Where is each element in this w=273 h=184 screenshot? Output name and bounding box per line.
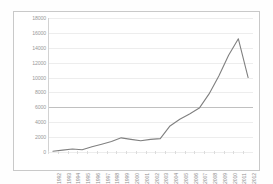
- x-tick-label-1996: 1996: [96, 173, 101, 183]
- x-tick-label-2007: 2007: [203, 173, 208, 183]
- y-tick-label-6000: 6000: [35, 105, 46, 110]
- x-tick-mark-2001: [136, 151, 137, 154]
- y-tick-label-10000: 10000: [32, 75, 46, 80]
- x-tick-mark-1996: [87, 151, 88, 154]
- plot-area: [48, 18, 253, 152]
- x-tick-label-2008: 2008: [213, 173, 218, 183]
- x-tick-mark-1995: [77, 151, 78, 154]
- x-tick-mark-2006: [185, 151, 186, 154]
- x-tick-mark-2004: [165, 151, 166, 154]
- x-tick-label-2000: 2000: [135, 173, 140, 183]
- x-tick-mark-2007: [194, 151, 195, 154]
- chart-plot-wrapper: 0200040006000800010000120001400016000180…: [14, 12, 261, 172]
- y-tick-label-0: 0: [43, 150, 46, 155]
- x-tick-mark-2008: [204, 151, 205, 154]
- x-tick-mark-1999: [116, 151, 117, 154]
- x-tick-mark-1992: [48, 151, 49, 154]
- x-tick-mark-2010: [224, 151, 225, 154]
- x-tick-label-1992: 1992: [57, 173, 62, 183]
- x-tick-mark-1997: [97, 151, 98, 154]
- x-tick-label-1998: 1998: [115, 173, 120, 183]
- x-tick-label-1999: 1999: [125, 173, 130, 183]
- x-axis-tick-labels: 1992199319941995199619971998199920002001…: [48, 154, 253, 183]
- x-tick-mark-1994: [68, 151, 69, 154]
- series-polyline: [53, 39, 248, 151]
- x-tick-label-2001: 2001: [145, 173, 150, 183]
- x-tick-label-2011: 2011: [242, 173, 247, 183]
- y-tick-label-18000: 18000: [32, 16, 46, 21]
- x-tick-mark-2003: [155, 151, 156, 154]
- x-tick-label-2005: 2005: [184, 173, 189, 183]
- gridline-0: [48, 152, 253, 153]
- x-tick-label-1994: 1994: [76, 173, 81, 183]
- y-tick-label-16000: 16000: [32, 30, 46, 35]
- x-tick-mark-2002: [146, 151, 147, 154]
- y-tick-label-4000: 4000: [35, 120, 46, 125]
- y-tick-label-14000: 14000: [32, 45, 46, 50]
- x-tick-label-2004: 2004: [174, 173, 179, 183]
- x-tick-label-1993: 1993: [67, 173, 72, 183]
- x-tick-mark-2011: [233, 151, 234, 154]
- x-tick-label-2010: 2010: [233, 173, 238, 183]
- x-tick-label-1995: 1995: [86, 173, 91, 183]
- x-tick-label-2003: 2003: [164, 173, 169, 183]
- x-tick-label-2009: 2009: [223, 173, 228, 183]
- y-axis-tick-labels: 0200040006000800010000120001400016000180…: [16, 18, 46, 152]
- x-tick-label-2006: 2006: [194, 173, 199, 183]
- x-tick-mark-2000: [126, 151, 127, 154]
- y-tick-label-8000: 8000: [35, 90, 46, 95]
- x-tick-mark-2012: [243, 151, 244, 154]
- x-tick-mark-2005: [175, 151, 176, 154]
- x-tick-label-1997: 1997: [106, 173, 111, 183]
- y-tick-label-2000: 2000: [35, 135, 46, 140]
- chart-container: 0200040006000800010000120001400016000180…: [13, 11, 260, 171]
- x-tick-mark-1993: [58, 151, 59, 154]
- x-tick-label-2012: 2012: [252, 173, 257, 183]
- x-tick-mark-2009: [214, 151, 215, 154]
- x-tick-label-2002: 2002: [155, 173, 160, 183]
- line-series: [48, 18, 253, 152]
- x-tick-mark-1998: [107, 151, 108, 154]
- y-tick-label-12000: 12000: [32, 60, 46, 65]
